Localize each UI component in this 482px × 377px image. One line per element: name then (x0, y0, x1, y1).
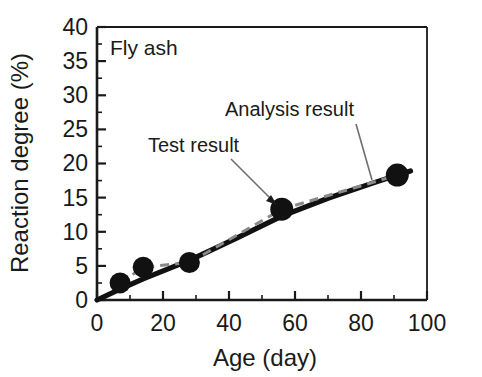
x-axis-title: Age (day) (213, 344, 317, 371)
panel-label-fly-ash: Fly ash (110, 36, 178, 59)
x-tick-label-100: 100 (408, 310, 446, 336)
data-point-day-91 (386, 164, 409, 187)
data-point-day-28 (179, 252, 200, 273)
y-tick-label-15: 15 (62, 185, 88, 211)
y-tick-label-20: 20 (62, 150, 88, 176)
y-axis-title: Reaction degree (%) (6, 53, 33, 273)
figure-container: 0 5 10 15 20 25 30 35 40 0 20 40 60 80 1… (0, 0, 482, 377)
y-tick-label-35: 35 (62, 48, 88, 74)
x-tick-label-20: 20 (150, 310, 176, 336)
annotation-test-result-text: Test result (148, 134, 240, 156)
y-tick-label-0: 0 (75, 287, 88, 313)
y-tick-label-10: 10 (62, 219, 88, 245)
reaction-degree-chart: 0 5 10 15 20 25 30 35 40 0 20 40 60 80 1… (0, 0, 482, 377)
y-tick-label-30: 30 (62, 82, 88, 108)
x-tick-label-40: 40 (216, 310, 242, 336)
x-tick-label-60: 60 (282, 310, 308, 336)
y-tick-label-5: 5 (75, 253, 88, 279)
x-tick-label-0: 0 (91, 310, 104, 336)
annotation-analysis-result-text: Analysis result (225, 98, 354, 120)
data-point-day-7 (110, 272, 131, 293)
x-tick-label-80: 80 (348, 310, 374, 336)
y-tick-label-25: 25 (62, 116, 88, 142)
y-tick-label-40: 40 (62, 14, 88, 40)
data-point-day-14 (133, 257, 154, 278)
